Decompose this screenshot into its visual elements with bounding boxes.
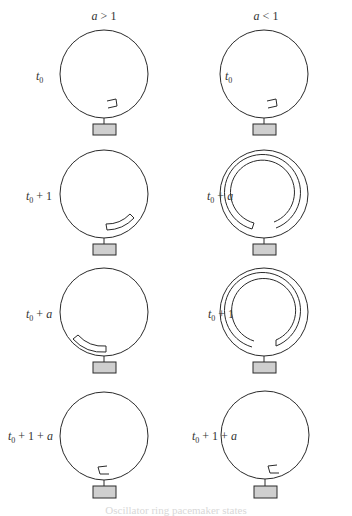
row-t0-plus-1-plus-a-left: t0 + 1 + a bbox=[8, 392, 148, 498]
spiral-end bbox=[252, 223, 254, 229]
row-t0-left: t0 bbox=[36, 30, 148, 135]
time-label: t0 bbox=[225, 69, 232, 85]
pacemaker-box bbox=[93, 362, 116, 373]
figure-caption: Oscillator ring pacemaker states bbox=[105, 504, 246, 516]
ring-circle bbox=[60, 30, 148, 118]
spiral-loop-inner bbox=[230, 160, 294, 223]
row-t0-right: t0 bbox=[220, 30, 308, 135]
pulse-arc bbox=[73, 335, 106, 352]
row-t0-plus-a-right: t0 + a bbox=[207, 150, 308, 255]
pulse-segment bbox=[98, 466, 109, 474]
pacemaker-box bbox=[93, 124, 116, 135]
ring-circle bbox=[60, 268, 148, 356]
ring-circle bbox=[60, 150, 148, 238]
row-t0-plus-1-plus-a-right: t0 + 1 + a bbox=[192, 391, 309, 498]
row-t0-plus-1-right: t0 + 1 bbox=[208, 268, 308, 373]
time-label: t0 + 1 bbox=[208, 307, 234, 323]
pacemaker-box bbox=[253, 244, 276, 255]
time-label: t0 + 1 bbox=[26, 189, 52, 205]
pacemaker-box bbox=[93, 244, 116, 255]
pacemaker-box bbox=[253, 362, 276, 373]
row-t0-plus-a-left: t0 + a bbox=[26, 268, 148, 373]
row-t0-plus-1-left: t0 + 1 bbox=[26, 150, 148, 255]
spiral-loop-outer bbox=[224, 154, 300, 229]
pulse-segment bbox=[267, 99, 277, 108]
pacemaker-box bbox=[254, 486, 277, 498]
spiral-loop-inner bbox=[232, 278, 296, 341]
column-header-a-gt-1: a > 1 bbox=[92, 9, 117, 23]
spiral-loop-outer bbox=[224, 272, 300, 347]
time-label: t0 + a bbox=[26, 307, 52, 323]
ring-circle bbox=[220, 30, 308, 118]
pulse-arc bbox=[106, 214, 134, 230]
time-label: t0 + 1 + a bbox=[8, 429, 53, 445]
time-label: t0 + 1 + a bbox=[192, 429, 237, 445]
pulse-segment bbox=[268, 465, 279, 473]
time-label: t0 bbox=[36, 69, 43, 85]
pacemaker-box bbox=[253, 124, 276, 135]
pacemaker-box bbox=[93, 486, 116, 498]
column-header-a-lt-1: a < 1 bbox=[254, 9, 279, 23]
pulse-segment bbox=[107, 99, 117, 108]
oscillator-diagram: a > 1 a < 1 t0 t0 t0 + 1 t0 + a bbox=[0, 0, 352, 516]
time-label: t0 + a bbox=[207, 189, 233, 205]
